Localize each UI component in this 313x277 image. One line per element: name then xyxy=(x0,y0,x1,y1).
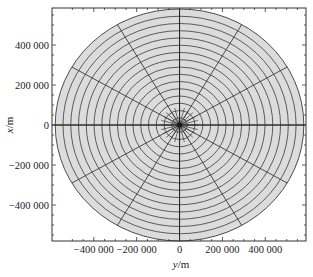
x-axis-label: y/m xyxy=(172,258,190,270)
x-axis-label-unit: /m xyxy=(178,258,190,270)
x-tick-label: 0 xyxy=(177,244,182,255)
y-tick-label: −400 000 xyxy=(9,200,49,211)
x-tick-label: 400 000 xyxy=(248,244,282,255)
y-axis-label: x/m xyxy=(3,116,15,134)
y-axis-label-unit: /m xyxy=(3,116,15,128)
x-tick-label: 200 000 xyxy=(205,244,239,255)
y-tick-label: 400 000 xyxy=(15,40,49,51)
x-tick-label: −200 000 xyxy=(117,244,157,255)
polar-mesh-chart: −400 000−200 0000200 000400 000 400 0002… xyxy=(0,0,313,277)
x-tick-label: −400 000 xyxy=(74,244,114,255)
y-tick-label: 200 000 xyxy=(15,80,49,91)
polar-mesh xyxy=(52,8,306,241)
y-tick-label: 0 xyxy=(44,120,49,131)
y-tick-label: −200 000 xyxy=(9,160,49,171)
